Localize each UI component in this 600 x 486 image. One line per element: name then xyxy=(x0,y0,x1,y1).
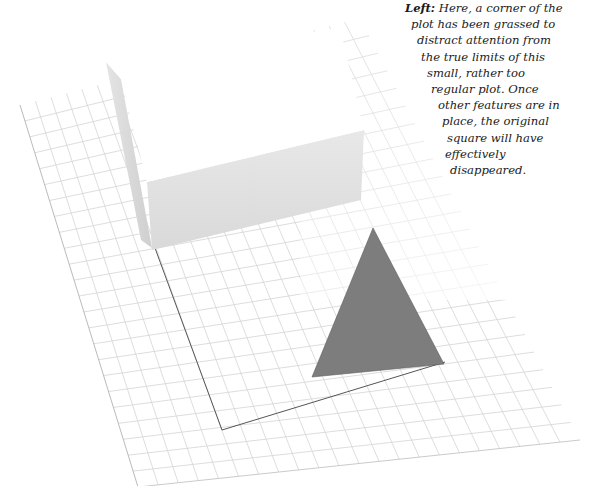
caption-text: place, the original xyxy=(442,114,549,128)
caption-line: plot has been grassed to xyxy=(405,16,595,32)
caption-line: other features are in xyxy=(405,97,595,113)
caption-text: disappeared. xyxy=(450,163,526,177)
caption-text: regular plot. Once xyxy=(431,82,539,96)
caption-line: regular plot. Once xyxy=(405,81,595,97)
caption-text: the true limits of this xyxy=(421,50,545,64)
caption-text: Here, a corner of the xyxy=(435,1,563,15)
caption-line: place, the original xyxy=(405,113,595,129)
caption-line: square will have xyxy=(405,130,595,146)
caption-text: plot has been grassed to xyxy=(411,17,555,31)
caption-text: square will have xyxy=(447,131,543,145)
caption-line: disappeared. xyxy=(405,162,595,178)
caption-text: small, rather too xyxy=(427,66,525,80)
caption-line: distract attention from xyxy=(405,32,595,48)
caption-line: small, rather too xyxy=(405,65,595,81)
caption-line: Left: Here, a corner of the xyxy=(405,0,595,16)
caption-text: effectively xyxy=(445,147,505,161)
caption-text: other features are in xyxy=(438,98,560,112)
caption-line: the true limits of this xyxy=(405,49,595,65)
figure-caption: Left: Here, a corner of theplot has been… xyxy=(405,0,595,178)
caption-lead: Left: xyxy=(405,1,435,15)
caption-line: effectively xyxy=(405,146,595,162)
caption-text: distract attention from xyxy=(417,33,551,47)
